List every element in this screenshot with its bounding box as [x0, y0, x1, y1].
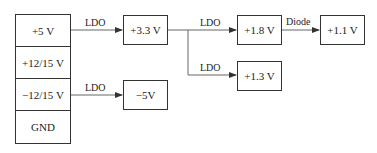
rail-plus12-15v: +12/15 V — [16, 47, 70, 79]
node-1v3: +1.3 V — [237, 61, 282, 91]
edge-label-ldo-neg12: LDO — [85, 82, 106, 93]
edge-label-ldo-5v: LDO — [85, 17, 106, 28]
node-3v3: +3.3 V — [123, 15, 168, 45]
rail-gnd: GND — [16, 111, 70, 143]
node-minus5v: −5V — [123, 80, 168, 110]
node-1v8: +1.8 V — [237, 15, 282, 45]
edge-label-diode: Diode — [286, 16, 310, 27]
node-1v1: +1.1 V — [320, 15, 365, 45]
rail-plus5v: +5 V — [16, 15, 70, 47]
edge-label-ldo-1v8: LDO — [200, 17, 221, 28]
rail-minus12-15v: −12/15 V — [16, 79, 70, 111]
edge-label-ldo-1v3: LDO — [200, 62, 221, 73]
power-source-rails: +5 V +12/15 V −12/15 V GND — [15, 14, 71, 144]
